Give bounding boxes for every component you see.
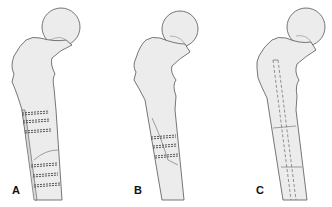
panel-a-femur-body — [12, 37, 72, 200]
panel-c-femur — [257, 8, 325, 200]
panel-a-femur — [12, 8, 80, 200]
panel-c-femur-body — [257, 37, 316, 200]
panel-b-femur-body — [134, 37, 190, 200]
panel-label-b: B — [134, 184, 142, 196]
panel-label-c: C — [256, 184, 264, 196]
panel-b-femur — [134, 11, 198, 200]
panel-label-a: A — [12, 184, 20, 196]
femur-fixation-figure: A B C — [0, 0, 332, 207]
femur-illustrations — [0, 0, 332, 207]
